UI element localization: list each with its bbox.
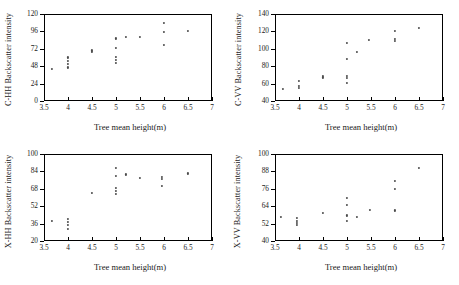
y-tick-mark (40, 154, 45, 155)
x-tick-label: 6.5 (414, 244, 423, 251)
y-tick-mark (40, 101, 45, 102)
x-tick-label: 3.5 (39, 104, 48, 111)
y-tick-mark (40, 84, 45, 85)
y-tick-label: 64 (262, 203, 269, 210)
x-tick-mark (371, 237, 372, 241)
y-tick-label: 120 (27, 10, 38, 17)
x-tick-label: 6.5 (414, 104, 423, 111)
y-tick-mark (271, 189, 276, 190)
y-tick-mark (271, 206, 276, 207)
x-tick-label: 4.5 (318, 104, 327, 111)
y-tick-label: 52 (31, 203, 38, 210)
x-tick-label: 5 (345, 104, 349, 111)
y-tick-label: 88 (262, 168, 269, 175)
y-tick-mark (40, 171, 45, 172)
x-tick-label: 4 (66, 104, 70, 111)
y-tick-label: 100 (258, 45, 269, 52)
y-tick-label: 36 (31, 220, 38, 227)
x-tick-label: 6.5 (183, 244, 192, 251)
chart-panel-x-vv: X-VV Backscatter intensity 4052647688100… (229, 142, 459, 285)
y-tick-mark (271, 84, 276, 85)
x-tick-label: 7 (441, 244, 445, 251)
y-axis-label-x-vv: X-VV Backscatter intensity (231, 142, 245, 260)
y-axis-label-text: X-HH Backscatter intensity (5, 154, 14, 248)
y-tick-label: 52 (262, 220, 269, 227)
chart-panel-x-hh: X-HH Backscatter intensity 2036526884100… (0, 142, 229, 285)
x-tick-mark (44, 97, 45, 101)
x-tick-label: 4 (297, 104, 301, 111)
x-tick-mark (395, 97, 396, 101)
x-tick-mark (443, 237, 444, 241)
y-tick-mark (271, 31, 276, 32)
x-tick-mark (371, 97, 372, 101)
y-tick-label: 20 (31, 237, 38, 244)
x-tick-mark (116, 97, 117, 101)
y-tick-mark (271, 49, 276, 50)
plot-area-c-hh: 0244872961203.544.555.566.57 (44, 14, 212, 101)
x-tick-label: 4 (66, 244, 70, 251)
y-tick-label: 0 (34, 97, 38, 104)
y-axis-label-c-hh: C-HH Backscatter intensity (2, 0, 16, 118)
chart-panel-c-vv: C-VV Backscatter intensity 4060801001201… (229, 0, 459, 142)
x-tick-label: 6 (393, 104, 397, 111)
x-tick-label: 5.5 (366, 104, 375, 111)
x-axis-label-x-hh: Tree mean height(m) (60, 262, 200, 272)
y-tick-mark (271, 14, 276, 15)
plot-frame (44, 154, 212, 241)
x-tick-mark (164, 97, 165, 101)
y-axis-label-x-hh: X-HH Backscatter intensity (2, 142, 16, 260)
y-tick-label: 96 (31, 28, 38, 35)
x-tick-mark (419, 97, 420, 101)
y-tick-label: 140 (258, 10, 269, 17)
y-tick-mark (271, 66, 276, 67)
x-tick-label: 3.5 (270, 104, 279, 111)
y-tick-label: 48 (31, 63, 38, 70)
x-tick-label: 7 (441, 104, 445, 111)
y-axis-label-c-vv: C-VV Backscatter intensity (231, 0, 245, 118)
plot-area-x-vv: 40526476881003.544.555.566.57 (275, 154, 443, 241)
x-tick-mark (164, 237, 165, 241)
y-tick-label: 40 (262, 97, 269, 104)
x-tick-mark (275, 237, 276, 241)
x-axis-label-x-vv: Tree mean height(m) (291, 262, 431, 272)
y-tick-mark (40, 224, 45, 225)
y-tick-mark (271, 154, 276, 155)
x-tick-mark (92, 237, 93, 241)
y-tick-mark (40, 241, 45, 242)
y-tick-mark (40, 66, 45, 67)
x-tick-label: 4 (297, 244, 301, 251)
x-tick-label: 5 (345, 244, 349, 251)
x-tick-mark (68, 237, 69, 241)
plot-frame (44, 14, 212, 101)
y-tick-mark (271, 241, 276, 242)
y-axis-label-text: C-VV Backscatter intensity (234, 13, 243, 106)
x-tick-mark (323, 97, 324, 101)
y-tick-label: 100 (258, 150, 269, 157)
x-tick-mark (44, 237, 45, 241)
y-tick-mark (40, 189, 45, 190)
y-tick-label: 72 (31, 45, 38, 52)
y-axis-label-text: X-VV Backscatter intensity (234, 154, 243, 247)
x-tick-label: 6 (162, 104, 166, 111)
plot-area-c-vv: 4060801001201403.544.555.566.57 (275, 14, 443, 101)
y-tick-label: 40 (262, 237, 269, 244)
x-tick-mark (212, 237, 213, 241)
y-tick-mark (40, 49, 45, 50)
y-axis-label-text: C-HH Backscatter intensity (5, 12, 14, 105)
y-tick-label: 76 (262, 185, 269, 192)
x-tick-mark (275, 97, 276, 101)
chart-panel-c-hh: C-HH Backscatter intensity 0244872961203… (0, 0, 229, 142)
x-axis-label-c-hh: Tree mean height(m) (60, 122, 200, 132)
x-tick-label: 7 (210, 104, 214, 111)
x-tick-label: 5.5 (135, 104, 144, 111)
x-tick-mark (92, 97, 93, 101)
x-tick-mark (116, 237, 117, 241)
x-tick-mark (419, 237, 420, 241)
y-tick-mark (40, 14, 45, 15)
x-tick-label: 5 (114, 104, 118, 111)
y-tick-label: 120 (258, 28, 269, 35)
x-tick-label: 5 (114, 244, 118, 251)
y-tick-label: 100 (27, 150, 38, 157)
x-tick-mark (299, 97, 300, 101)
x-tick-mark (188, 97, 189, 101)
